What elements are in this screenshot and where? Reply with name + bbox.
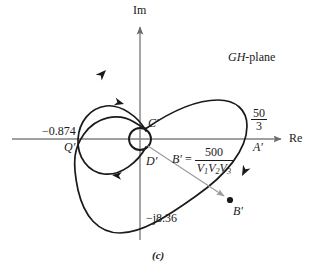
tick-label-minus-j836: −j8.36 [146, 212, 177, 224]
fifty-thirds-denominator: 3 [251, 120, 267, 132]
point-label-b-prime: B′ [233, 205, 243, 217]
denominator-term-2-sub: 2 [216, 167, 220, 176]
plane-label-suffix: -plane [245, 50, 275, 64]
tick-label-fifty-thirds: 50 3 [251, 107, 267, 132]
b-prime-equation-lhs: B′ [172, 152, 182, 166]
b-prime-denominator: V1V2V3 [195, 161, 233, 176]
b-prime-equation-equals: = [182, 152, 195, 166]
b-prime-equation-fraction: 500 V1V2V3 [195, 145, 233, 176]
arrowhead-outer-upper-left [96, 67, 109, 80]
real-axis-label: Re [289, 132, 302, 144]
denominator-term-2-var: V [208, 161, 215, 175]
point-label-c-prime: C′ [148, 117, 159, 129]
nyquist-figure: Im Re GH-plane −0.874 Q′ C′ D′ A′ B′ −j8… [0, 0, 321, 270]
fifty-thirds-fraction: 50 3 [251, 107, 267, 132]
denominator-term-1-sub: 1 [204, 167, 208, 176]
point-label-a-prime: A′ [253, 141, 263, 153]
denominator-term-3-var: V [220, 161, 227, 175]
b-prime-equation: B′= 500 V1V2V3 [172, 145, 233, 176]
point-label-q-prime: Q′ [64, 141, 75, 153]
figure-caption: (c) [152, 250, 164, 261]
plane-label-gh: GH [228, 50, 245, 64]
inner-loop [78, 106, 146, 174]
plane-label: GH-plane [228, 51, 275, 63]
denominator-term-1: V1 [197, 161, 208, 175]
arrowhead-outer-right [238, 165, 250, 178]
denominator-term-2: V2 [208, 161, 219, 175]
point-label-d-prime: D′ [146, 155, 157, 167]
denominator-term-1-var: V [197, 161, 204, 175]
b-prime-numerator: 500 [195, 145, 233, 161]
tick-label-minus-0874: −0.874 [42, 125, 76, 137]
denominator-term-3: V3 [220, 161, 231, 175]
b-prime-point-marker [227, 197, 233, 203]
inner-loop-path [78, 106, 146, 174]
denominator-term-3-sub: 3 [227, 167, 231, 176]
imaginary-axis-label: Im [133, 4, 146, 16]
